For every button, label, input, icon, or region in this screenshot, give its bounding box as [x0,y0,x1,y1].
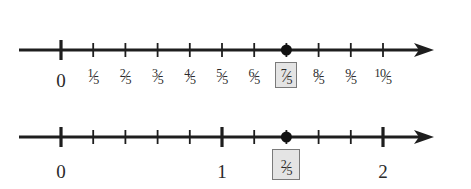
fifths-line [19,40,434,60]
number-line-diagram: 01⁄52⁄53⁄54⁄55⁄56⁄57⁄58⁄59⁄510⁄5012⁄52 [0,0,471,189]
tick-label: 0 [56,162,66,181]
fraction-label: 5⁄5 [216,68,227,85]
fraction-label: 9⁄5 [345,68,356,85]
denominator: 5 [254,74,260,86]
tick-label: 1 [217,162,227,181]
plotted-point [281,132,292,143]
fraction-label: 8⁄5 [313,68,324,85]
fraction-label: 6⁄5 [249,68,260,85]
number-lines-canvas [0,0,471,189]
highlighted-fraction-label: 7⁄5 [281,68,292,85]
denominator: 5 [319,74,325,86]
tick-label: 2 [378,162,388,181]
denominator: 5 [93,74,99,86]
mixed-number-line [19,127,434,147]
denominator: 5 [287,74,293,86]
plotted-point [281,45,292,56]
highlighted-fraction-label: 2⁄5 [281,159,292,176]
denominator: 5 [126,74,132,86]
fraction-label: 2⁄5 [120,68,131,85]
fraction-label: 1⁄5 [88,68,99,85]
tick-label: 0 [56,71,66,90]
fraction-label: 3⁄5 [152,68,163,85]
denominator: 5 [351,74,357,86]
denominator: 5 [158,74,164,86]
denominator: 5 [386,74,392,86]
denominator: 5 [287,165,293,177]
fraction-label: 10⁄5 [375,68,392,85]
denominator: 5 [222,74,228,86]
denominator: 5 [190,74,196,86]
fraction-label: 4⁄5 [184,68,195,85]
